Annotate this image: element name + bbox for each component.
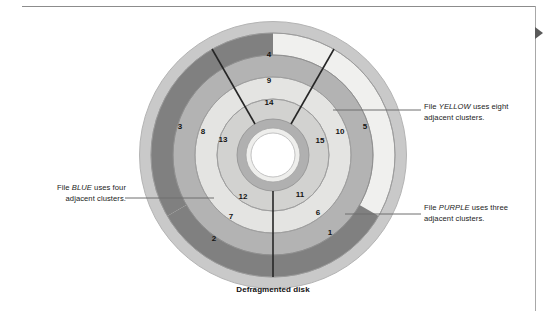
- callout-blue-line1-post: uses four: [92, 183, 126, 192]
- callout-blue-line1-pre: File: [57, 183, 72, 192]
- callout-purple-line2: adjacent clusters.: [424, 214, 484, 223]
- cluster-number: 8: [201, 127, 206, 136]
- callout-yellow-line1-pre: File: [424, 102, 439, 111]
- callout-blue: File BLUE uses four adjacent clusters.: [14, 183, 126, 204]
- cluster-number: 15: [316, 136, 325, 145]
- callout-yellow-line1-post: uses eight: [471, 102, 509, 111]
- cluster-number: 14: [265, 98, 274, 107]
- disk-hub: [237, 119, 309, 191]
- callout-yellow-filename: YELLOW: [439, 102, 471, 111]
- cluster-number: 11: [296, 190, 305, 199]
- callout-purple-filename: PURPLE: [439, 203, 470, 212]
- callout-purple-line1-pre: File: [424, 203, 439, 212]
- callout-yellow-line2: adjacent clusters.: [424, 113, 484, 122]
- callout-blue-filename: BLUE: [72, 183, 92, 192]
- figure-caption: Defragmented disk: [173, 285, 373, 294]
- cluster-number: 12: [239, 192, 248, 201]
- callout-purple-line1-post: uses three: [470, 203, 508, 212]
- cluster-number: 6: [316, 208, 321, 217]
- cluster-number: 9: [267, 76, 272, 85]
- cluster-number: 4: [267, 50, 272, 59]
- spindle-hole: [251, 133, 295, 177]
- page-canvas: 1 2 3 4 5 6 7 8 9 10 11 12 13 14 15 File…: [0, 0, 546, 311]
- cluster-number: 10: [336, 127, 345, 136]
- defragmented-disk-diagram: 1 2 3 4 5 6 7 8 9 10 11 12 13 14 15: [0, 0, 546, 311]
- cluster-number: 13: [219, 135, 228, 144]
- callout-yellow: File YELLOW uses eight adjacent clusters…: [424, 102, 536, 123]
- callout-blue-line2: adjacent clusters.: [66, 194, 126, 203]
- cluster-number: 7: [229, 212, 234, 221]
- callout-purple: File PURPLE uses three adjacent clusters…: [424, 203, 536, 224]
- cluster-number: 1: [328, 228, 333, 237]
- cluster-number: 5: [363, 122, 368, 131]
- cluster-number: 3: [178, 122, 183, 131]
- cluster-number: 2: [212, 234, 217, 243]
